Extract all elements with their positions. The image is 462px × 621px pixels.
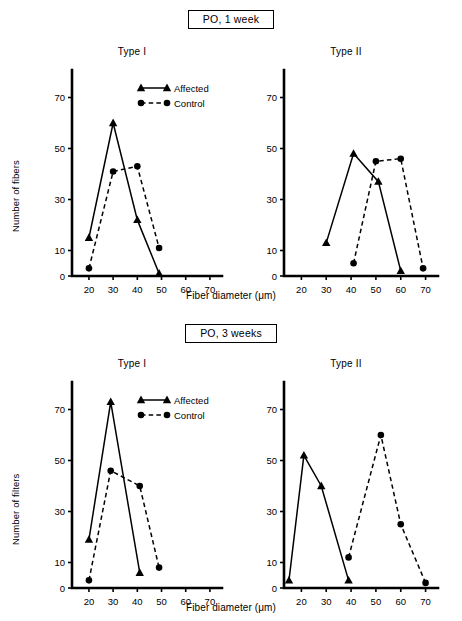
y-tick-label: 70 (54, 92, 65, 103)
y-tick-label: 0 (60, 583, 65, 594)
plot-area-po-1-week-type-1: 010305070203040506070AffectedControl (36, 62, 228, 306)
series-line-control (89, 166, 159, 268)
data-point-triangle (136, 568, 144, 576)
data-point-circle (397, 155, 404, 162)
figure-root: PO, 1 week Number of fibers Type I 01030… (0, 0, 462, 621)
data-point-triangle (344, 576, 352, 584)
axis-spine (284, 382, 438, 588)
legend-marker-circle-icon (138, 100, 145, 107)
data-point-triangle (85, 233, 93, 241)
data-point-triangle (285, 576, 293, 584)
data-point-circle (156, 564, 163, 571)
panel-title-po-3-weeks: PO, 3 weeks (185, 324, 277, 343)
data-point-circle (156, 245, 163, 252)
data-point-circle (86, 265, 93, 272)
series-line-affected (89, 123, 159, 273)
y-tick-label: 30 (266, 506, 277, 517)
data-point-circle (350, 260, 357, 267)
legend-label: Affected (174, 395, 209, 406)
legend-item-control: Control (138, 98, 205, 109)
data-point-circle (422, 580, 429, 587)
y-tick-label: 10 (266, 245, 277, 256)
subplot-title-type-1: Type I (36, 46, 228, 57)
panel-title-po-3-weeks-wrap: PO, 3 weeks (0, 324, 462, 343)
series-line-control (89, 471, 159, 581)
chart-svg-po-3-weeks-type-1: 010305070203040506070AffectedControl (36, 374, 228, 618)
series-line-affected (326, 154, 401, 271)
data-point-triangle (349, 149, 357, 157)
series-line-affected (89, 402, 140, 573)
y-axis-label-panel-2: Number of filters (10, 474, 21, 545)
y-tick-label: 10 (266, 557, 277, 568)
plot-area-po-3-weeks-type-1: 010305070203040506070AffectedControl (36, 374, 228, 618)
series-line-affected (289, 455, 349, 580)
y-tick-label: 30 (266, 194, 277, 205)
plot-area-po-3-weeks-type-2: 010305070203040506070 (248, 374, 444, 618)
subplot-po-3-weeks-type-2: Type II 010305070203040506070 (248, 358, 444, 608)
data-point-triangle (322, 238, 330, 246)
legend-marker-circle-icon (164, 100, 171, 107)
y-tick-label: 50 (54, 455, 65, 466)
y-tick-label: 50 (54, 143, 65, 154)
legend-item-affected: Affected (137, 395, 209, 406)
chart-svg-po-3-weeks-type-2: 010305070203040506070 (248, 374, 444, 618)
panel-title-po-1-week-wrap: PO, 1 week (0, 10, 462, 29)
legend-marker-circle-icon (138, 412, 145, 419)
data-point-circle (134, 163, 141, 170)
data-point-triangle (317, 482, 325, 490)
y-tick-label: 10 (54, 245, 65, 256)
y-tick-label: 0 (60, 271, 65, 282)
data-point-triangle (155, 269, 163, 277)
data-point-circle (107, 467, 114, 474)
chart-svg-po-1-week-type-2: 010305070203040506070 (248, 62, 444, 306)
panel-title-po-1-week: PO, 1 week (188, 10, 274, 29)
legend-marker-circle-icon (164, 412, 171, 419)
y-axis-label-panel-1: Number of fibers (10, 160, 21, 232)
legend-label: Affected (174, 83, 209, 94)
legend-label: Control (174, 98, 205, 109)
y-tick-label: 70 (54, 404, 65, 415)
series-line-control (354, 159, 424, 269)
y-tick-label: 30 (54, 506, 65, 517)
data-point-circle (86, 577, 93, 584)
subplot-title-type-2: Type II (248, 358, 444, 369)
chart-svg-po-1-week-type-1: 010305070203040506070AffectedControl (36, 62, 228, 306)
legend-label: Control (174, 410, 205, 421)
x-axis-label-panel-2: Fiber diameter (μm) (0, 602, 462, 613)
subplot-po-3-weeks-type-1: Type I 010305070203040506070AffectedCont… (36, 358, 228, 608)
data-point-circle (345, 554, 352, 561)
y-tick-label: 50 (266, 143, 277, 154)
subplot-po-1-week-type-2: Type II 010305070203040506070 (248, 46, 444, 296)
legend-item-control: Control (138, 410, 205, 421)
data-point-circle (373, 158, 380, 165)
data-point-triangle (300, 451, 308, 459)
data-point-triangle (397, 266, 405, 274)
y-tick-label: 70 (266, 404, 277, 415)
data-point-circle (420, 265, 427, 272)
data-point-triangle (133, 215, 141, 223)
data-point-circle (378, 432, 385, 439)
data-point-circle (397, 521, 404, 528)
series-line-control (349, 435, 426, 583)
data-point-triangle (109, 119, 117, 127)
y-tick-label: 70 (266, 92, 277, 103)
subplot-title-type-2: Type II (248, 46, 444, 57)
y-tick-label: 10 (54, 557, 65, 568)
data-point-triangle (107, 397, 115, 405)
data-point-circle (136, 483, 143, 490)
y-tick-label: 0 (272, 271, 277, 282)
legend-item-affected: Affected (137, 83, 209, 94)
plot-area-po-1-week-type-2: 010305070203040506070 (248, 62, 444, 306)
axis-spine (284, 70, 438, 276)
subplot-po-1-week-type-1: Type I 010305070203040506070AffectedCont… (36, 46, 228, 296)
y-tick-label: 30 (54, 194, 65, 205)
x-axis-label-panel-1: Fiber diameter (μm) (0, 290, 462, 301)
y-tick-label: 50 (266, 455, 277, 466)
data-point-triangle (85, 535, 93, 543)
y-tick-label: 0 (272, 583, 277, 594)
subplot-title-type-1: Type I (36, 358, 228, 369)
data-point-circle (110, 168, 117, 175)
